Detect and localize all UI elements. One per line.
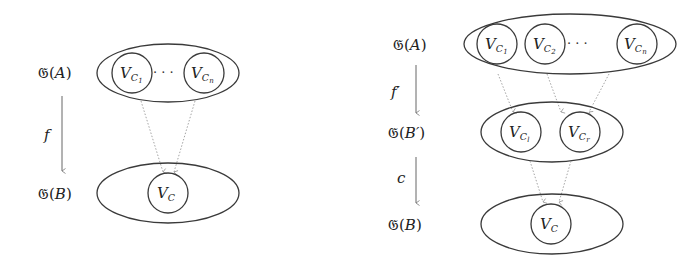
right-ellipsis: · · · xyxy=(567,36,588,51)
left-node-vcn: VCn xyxy=(184,53,224,93)
right-node-vcl: VCl xyxy=(501,112,541,152)
right-label-graph-b-prime: 𝔊(B′) xyxy=(388,124,425,142)
left-map-line-1 xyxy=(141,101,163,172)
right-arrow-label-c: c xyxy=(397,169,406,187)
left-node-vc1: VC1 xyxy=(112,53,152,93)
svg-text:VC2: VC2 xyxy=(533,35,556,56)
right-map-line-3 xyxy=(589,74,609,112)
svg-text:VC: VC xyxy=(540,215,559,234)
right-diagram: 𝔊(A) VC1 VC2 · · · VCn f′ 𝔊(B′) xyxy=(388,14,676,254)
svg-text:VC: VC xyxy=(157,184,176,203)
svg-text:VCn: VCn xyxy=(191,64,214,85)
left-map-line-2 xyxy=(174,101,195,172)
right-node-vc2: VC2 xyxy=(525,24,565,64)
right-map-line-1 xyxy=(498,74,513,112)
svg-text:VCl: VCl xyxy=(509,123,529,144)
svg-text:VCn: VCn xyxy=(624,35,647,56)
left-label-graph-b: 𝔊(B) xyxy=(38,185,72,203)
right-node-vc: VC xyxy=(531,204,571,244)
left-diagram: 𝔊(A) VC1 · · · VCn f 𝔊(B) VC xyxy=(38,44,239,223)
svg-text:VCr: VCr xyxy=(568,123,590,144)
right-arrow-label-f-prime: f′ xyxy=(390,83,401,101)
right-map-line-5 xyxy=(559,161,571,202)
right-label-graph-a: 𝔊(A) xyxy=(393,36,427,54)
right-map-line-2 xyxy=(547,74,561,112)
svg-text:VC1: VC1 xyxy=(120,64,143,85)
right-node-vcn: VCn xyxy=(617,24,657,64)
left-ellipsis: · · · xyxy=(153,65,174,80)
right-map-line-4 xyxy=(530,161,543,202)
right-node-vc1: VC1 xyxy=(477,24,517,64)
svg-text:VC1: VC1 xyxy=(485,35,508,56)
left-arrow-label-f: f xyxy=(43,126,52,144)
right-middle-ellipse xyxy=(481,102,623,162)
right-label-graph-b: 𝔊(B) xyxy=(388,216,422,234)
right-node-vcr: VCr xyxy=(560,112,600,152)
left-label-graph-a: 𝔊(A) xyxy=(38,64,72,82)
left-node-vc: VC xyxy=(148,173,188,213)
